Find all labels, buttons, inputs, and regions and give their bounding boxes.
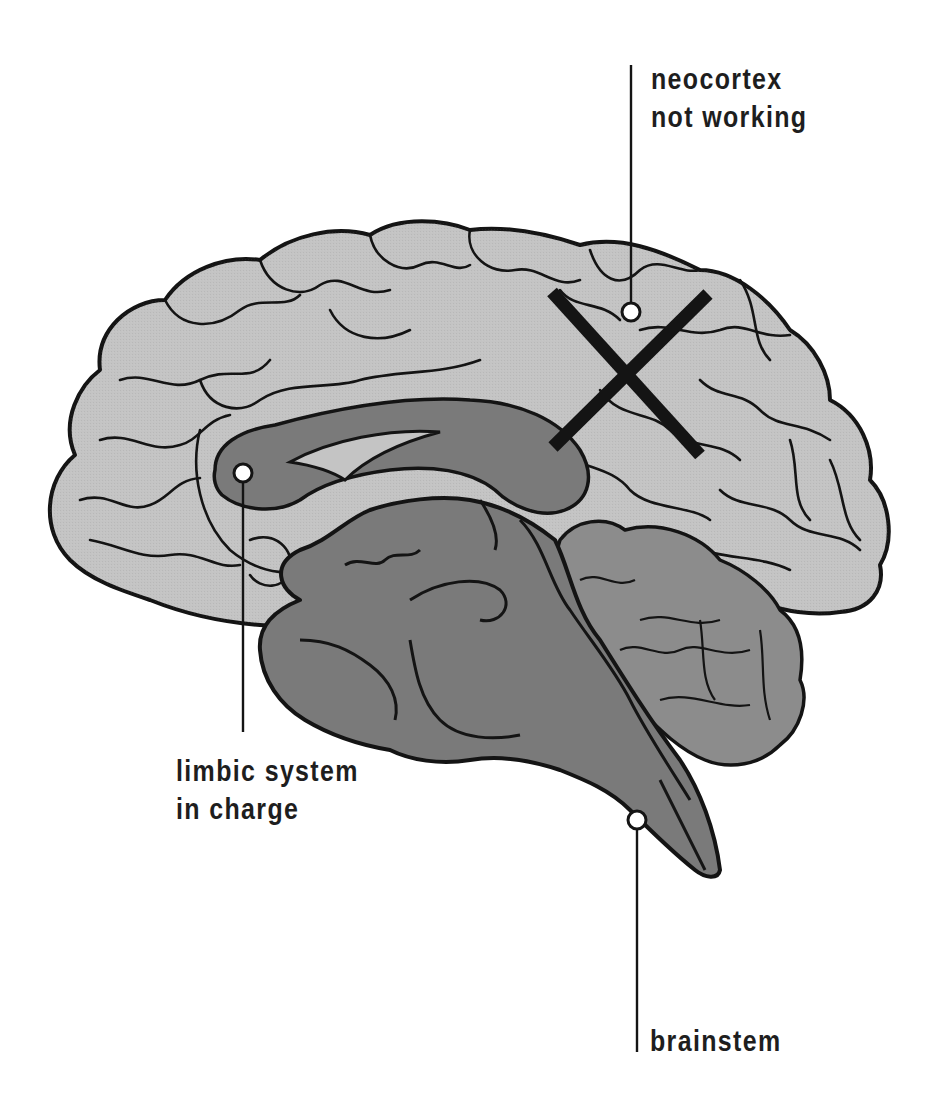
neocortex-label-line1: neocortex [651, 60, 807, 98]
neocortex-label-line2: not working [651, 98, 807, 136]
neocortex-marker-dot [622, 303, 640, 321]
neocortex-label: neocortex not working [651, 60, 807, 136]
brainstem-label-line1: brainstem [650, 1022, 782, 1060]
limbic-label: limbic system in charge [176, 752, 359, 828]
brainstem-marker-dot [628, 811, 646, 829]
brain-illustration [0, 0, 929, 1109]
limbic-label-line2: in charge [176, 790, 359, 828]
limbic-marker-dot [234, 464, 252, 482]
brainstem-label: brainstem [650, 1022, 782, 1060]
brain-diagram: neocortex not working limbic system in c… [0, 0, 929, 1109]
limbic-label-line1: limbic system [176, 752, 359, 790]
